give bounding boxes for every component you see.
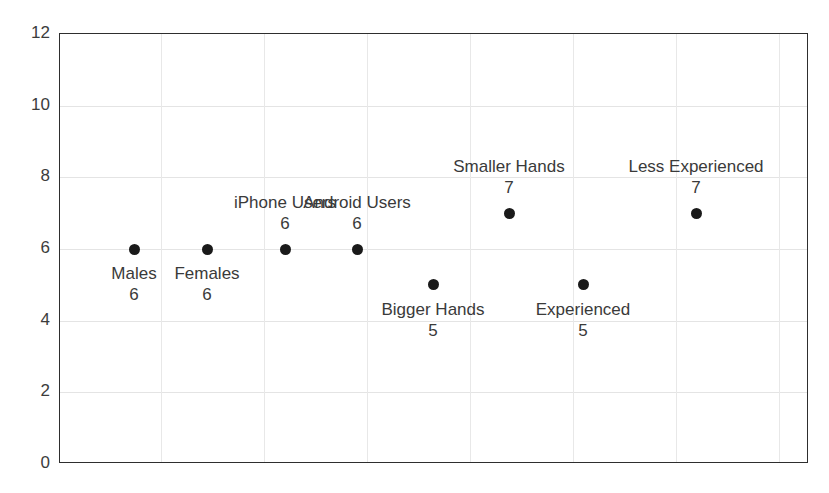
gridline-vertical xyxy=(779,34,780,462)
data-point-name: Females xyxy=(174,263,239,284)
gridline-horizontal xyxy=(60,321,807,322)
data-point-value: 6 xyxy=(303,213,411,234)
data-point-name: Experienced xyxy=(536,299,631,320)
gridline-vertical xyxy=(367,34,368,462)
data-point-name: Android Users xyxy=(303,192,411,213)
data-point[interactable] xyxy=(352,244,363,255)
gridline-horizontal xyxy=(60,177,807,178)
data-point-label: iPhone Users6 xyxy=(234,192,336,234)
data-point-value: 6 xyxy=(174,284,239,305)
data-point[interactable] xyxy=(428,279,439,290)
data-point[interactable] xyxy=(280,244,291,255)
y-axis-tick-label: 4 xyxy=(4,311,50,328)
data-point-label: Males6 xyxy=(111,263,156,305)
y-axis-tick-label: 12 xyxy=(4,24,50,41)
gridline-vertical xyxy=(676,34,677,462)
data-point-value: 6 xyxy=(234,213,336,234)
data-point-name: iPhone Users xyxy=(234,192,336,213)
plot-area: Males6Females6iPhone Users6Android Users… xyxy=(59,33,808,463)
data-point[interactable] xyxy=(578,279,589,290)
y-axis: 121086420 xyxy=(0,33,50,463)
y-axis-tick-label: 2 xyxy=(4,382,50,399)
y-axis-tick-label: 8 xyxy=(4,167,50,184)
gridline-horizontal xyxy=(60,106,807,107)
data-point-value: 7 xyxy=(628,177,763,198)
gridline-vertical xyxy=(264,34,265,462)
gridline-vertical xyxy=(470,34,471,462)
data-point-label: Android Users6 xyxy=(303,192,411,234)
gridline-horizontal xyxy=(60,392,807,393)
data-point-name: Less Experienced xyxy=(628,156,763,177)
data-point[interactable] xyxy=(129,244,140,255)
y-axis-tick-label: 10 xyxy=(4,96,50,113)
data-point[interactable] xyxy=(504,208,515,219)
data-point[interactable] xyxy=(691,208,702,219)
gridline-vertical xyxy=(573,34,574,462)
data-point-value: 6 xyxy=(111,284,156,305)
data-point-value: 5 xyxy=(536,320,631,341)
data-point-label: Females6 xyxy=(174,263,239,305)
data-point-name: Males xyxy=(111,263,156,284)
gridline-horizontal xyxy=(60,249,807,250)
gridline-vertical xyxy=(161,34,162,462)
y-axis-tick-label: 0 xyxy=(4,454,50,471)
scatter-chart: 121086420 Males6Females6iPhone Users6And… xyxy=(0,0,829,493)
y-axis-tick-label: 6 xyxy=(4,239,50,256)
data-point[interactable] xyxy=(202,244,213,255)
